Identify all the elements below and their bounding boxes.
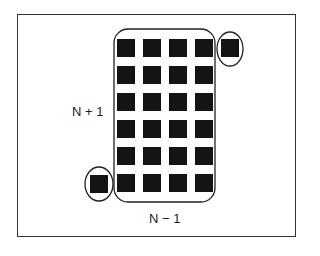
bottom-left-outlier-square <box>90 175 108 193</box>
label-n-plus-1: N + 1 <box>72 104 103 119</box>
grid-square <box>143 174 161 192</box>
label-n-minus-1: N − 1 <box>149 211 180 226</box>
grid-square <box>169 147 187 165</box>
grid-square <box>195 174 213 192</box>
grid-square <box>117 93 135 111</box>
grid-square <box>169 174 187 192</box>
top-right-outlier-square <box>221 39 239 57</box>
outlier-squares <box>85 32 243 201</box>
grid-square <box>169 66 187 84</box>
grid-square <box>143 93 161 111</box>
grid-square <box>117 39 135 57</box>
grid-square <box>117 147 135 165</box>
grid-square <box>117 120 135 138</box>
grid-square <box>195 39 213 57</box>
grid-square <box>169 39 187 57</box>
grid-square <box>143 39 161 57</box>
grid-square <box>195 120 213 138</box>
grid-square <box>195 147 213 165</box>
grid-square <box>117 66 135 84</box>
grid-square <box>143 147 161 165</box>
square-grid <box>117 39 213 192</box>
grid-square <box>195 93 213 111</box>
grid-square <box>169 120 187 138</box>
grid-square <box>195 66 213 84</box>
grid-square <box>117 174 135 192</box>
grid-square <box>169 93 187 111</box>
grid-square <box>143 66 161 84</box>
grid-square <box>143 120 161 138</box>
